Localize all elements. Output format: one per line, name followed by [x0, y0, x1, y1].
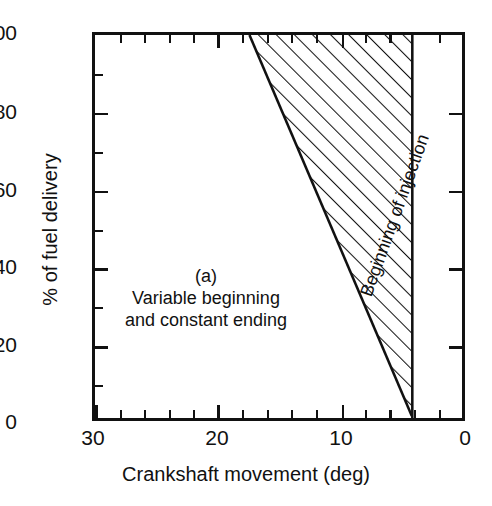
x-top-minor-tick-24: [169, 35, 171, 43]
x-tick-label-30: 30: [81, 427, 104, 448]
x-minor-tick-12: [316, 410, 318, 418]
y-right-major-tick-60: [449, 191, 462, 194]
y-major-tick-20: [95, 346, 108, 349]
x-minor-tick-28: [120, 410, 122, 418]
x-major-tick-30: [95, 405, 98, 418]
y-major-tick-60: [95, 191, 108, 194]
x-minor-tick-18: [242, 410, 244, 418]
x-top-minor-tick-6: [389, 35, 391, 43]
y-right-major-tick-20: [449, 346, 462, 349]
x-minor-tick-2: [439, 410, 441, 418]
plot-graphics: [95, 35, 462, 418]
y-minor-tick-90: [95, 74, 103, 76]
x-minor-tick-22: [193, 410, 195, 418]
y-right-major-tick-40: [449, 268, 462, 271]
y-right-major-tick-80: [449, 113, 462, 116]
description-line-2: and constant ending: [106, 309, 306, 331]
y-tick-label-40: 40: [0, 256, 17, 277]
description-line-1: Variable beginning: [106, 287, 306, 309]
x-top-minor-tick-26: [144, 35, 146, 43]
x-top-minor-tick-14: [291, 35, 293, 43]
y-minor-tick-70: [95, 152, 103, 154]
x-tick-label-20: 20: [205, 427, 228, 448]
x-major-tick-10: [342, 405, 345, 418]
x-top-major-tick-20: [217, 35, 220, 48]
x-major-tick-0: [463, 405, 465, 418]
x-top-minor-tick-8: [365, 35, 367, 43]
y-tick-label-20: 20: [0, 334, 17, 355]
x-minor-tick-8: [365, 410, 367, 418]
panel-letter: (a): [106, 265, 306, 287]
y-tick-label-60: 60: [0, 178, 17, 199]
x-top-minor-tick-18: [242, 35, 244, 43]
y-minor-tick-10: [95, 385, 103, 387]
x-top-minor-tick-16: [267, 35, 269, 43]
chart-figure: (a) Variable beginning and constant endi…: [0, 0, 492, 506]
x-minor-tick-4: [414, 410, 416, 418]
x-top-minor-tick-12: [316, 35, 318, 43]
x-top-major-tick-10: [342, 35, 345, 48]
x-minor-tick-6: [389, 410, 391, 418]
y-minor-tick-30: [95, 307, 103, 309]
y-tick-label-80: 80: [0, 100, 17, 121]
x-minor-tick-14: [291, 410, 293, 418]
x-minor-tick-16: [267, 410, 269, 418]
x-tick-label-0: 0: [459, 427, 471, 448]
x-major-tick-20: [217, 405, 220, 418]
x-axis-title: Crankshaft movement (deg): [0, 463, 492, 486]
y-tick-label-0: 0: [5, 411, 17, 432]
x-tick-label-10: 10: [329, 427, 352, 448]
y-major-tick-80: [95, 113, 108, 116]
y-axis-title: % of fuel delivery: [39, 80, 62, 380]
x-minor-tick-24: [169, 410, 171, 418]
y-tick-label-100: 100: [0, 22, 17, 43]
x-top-minor-tick-2: [439, 35, 441, 43]
x-minor-tick-26: [144, 410, 146, 418]
x-top-minor-tick-22: [193, 35, 195, 43]
y-minor-tick-50: [95, 230, 103, 232]
panel-annotation: (a) Variable beginning and constant endi…: [106, 265, 306, 331]
x-top-minor-tick-28: [120, 35, 122, 43]
plot-area: (a) Variable beginning and constant endi…: [92, 32, 465, 421]
